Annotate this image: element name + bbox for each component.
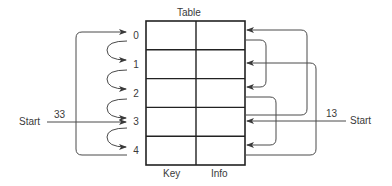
- right-start-key: 13: [326, 108, 337, 120]
- table-grid: [146, 21, 245, 165]
- column-label-key: Key: [163, 168, 180, 180]
- row-index-0: 0: [131, 30, 141, 42]
- right-links: [246, 30, 316, 155]
- right-start-label: Start: [350, 115, 371, 127]
- column-label-info: Info: [211, 168, 228, 180]
- row-index-3: 3: [131, 116, 141, 128]
- left-start-label: Start: [19, 116, 40, 128]
- left-start-key: 33: [54, 109, 65, 121]
- row-index-1: 1: [131, 59, 141, 71]
- left-wrap-link: [76, 32, 127, 155]
- row-index-4: 4: [131, 145, 141, 157]
- row-index-2: 2: [131, 88, 141, 100]
- left-step-links: [107, 41, 127, 147]
- table-title: Table: [177, 7, 201, 19]
- hash-table-diagram: Table Key Info 0 1 2 3 4 Start 33 13 Sta…: [0, 0, 392, 186]
- diagram-canvas: [0, 0, 392, 186]
